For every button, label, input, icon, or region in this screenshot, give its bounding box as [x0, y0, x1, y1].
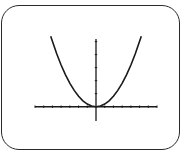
graph-plot	[0, 0, 184, 156]
axes	[35, 39, 157, 121]
